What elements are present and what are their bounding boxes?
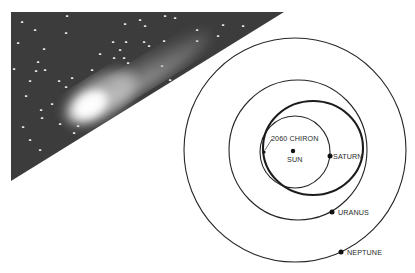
star (164, 15, 167, 17)
star (91, 69, 94, 71)
star (242, 25, 245, 27)
star (29, 139, 32, 141)
star (22, 126, 25, 128)
star (143, 41, 146, 43)
star (139, 19, 142, 21)
star (99, 53, 102, 55)
star (169, 79, 172, 81)
star (59, 123, 62, 125)
saturn-label: SATURN (333, 152, 363, 161)
star (51, 103, 54, 105)
star (71, 77, 74, 79)
star (127, 62, 130, 64)
sun-label: SUN (287, 155, 302, 164)
star (65, 32, 68, 34)
orbit-diagram: SUN SATURN URANUS NEPTUNE 2060 CHIRON (184, 38, 406, 262)
uranus-orbit (229, 80, 367, 220)
chiron-orbit (263, 101, 363, 195)
star (43, 48, 46, 50)
star (119, 49, 122, 51)
uranus-label: URANUS (338, 208, 369, 217)
star (17, 42, 20, 44)
star (113, 57, 116, 59)
uranus-marker (330, 210, 335, 215)
star (34, 29, 37, 31)
star (44, 69, 47, 71)
star (73, 132, 76, 134)
star (66, 15, 69, 17)
star (37, 61, 40, 63)
star (65, 86, 68, 88)
star (77, 125, 80, 127)
star (25, 95, 28, 97)
star (125, 41, 128, 43)
sun-marker (291, 149, 295, 153)
comet-photograph (11, 12, 284, 181)
star (112, 41, 115, 43)
star (13, 68, 16, 70)
star (39, 149, 42, 151)
star (21, 21, 24, 23)
neptune-label: NEPTUNE (347, 248, 382, 257)
star (196, 29, 199, 31)
chiron-label: 2060 CHIRON (271, 134, 318, 143)
neptune-orbit (184, 38, 406, 262)
comet-and-orbit-figure: SUN SATURN URANUS NEPTUNE 2060 CHIRON (0, 0, 415, 273)
star (222, 24, 225, 26)
star (29, 80, 32, 82)
star (35, 70, 38, 72)
chiron-marker (262, 150, 265, 153)
saturn-marker (328, 154, 333, 159)
star (41, 117, 44, 119)
night-sky-background (11, 12, 284, 181)
star (58, 80, 61, 82)
star (123, 57, 126, 59)
star (174, 17, 177, 19)
saturn-orbit (260, 116, 330, 188)
star (124, 23, 127, 25)
neptune-marker (339, 250, 344, 255)
star (217, 35, 220, 37)
star (148, 45, 151, 47)
star (163, 40, 166, 42)
star (40, 109, 43, 111)
star (144, 25, 147, 27)
